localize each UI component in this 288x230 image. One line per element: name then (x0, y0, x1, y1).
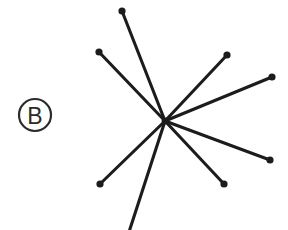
panel-label-text: B (27, 103, 42, 129)
ray-endpoint-dot-southeast (220, 180, 227, 187)
ray-endpoint-dot-east-lower (266, 156, 273, 163)
ray-endpoint-dot-north (118, 7, 125, 14)
ray-center-point (162, 118, 169, 125)
ray-endpoint-dot-southwest (96, 180, 103, 187)
ray-endpoint-dot-northwest (95, 48, 102, 55)
star-ray-diagram: B (0, 0, 288, 230)
ray-endpoint-dot-northeast (223, 51, 230, 58)
figure-canvas: B (0, 0, 288, 230)
figure-background (0, 0, 288, 230)
ray-endpoint-dot-east-upper (268, 73, 275, 80)
